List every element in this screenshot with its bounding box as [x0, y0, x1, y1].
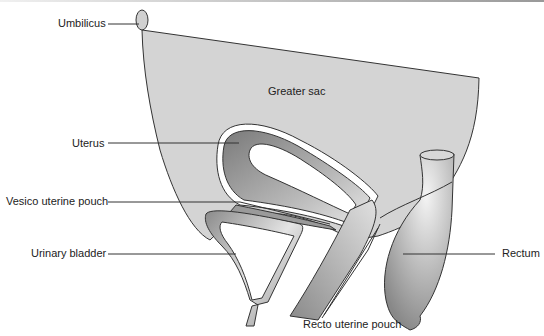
label-uterus: Uterus	[72, 137, 104, 150]
pelvis-diagram	[0, 0, 544, 336]
label-rectum: Rectum	[502, 247, 540, 260]
label-greater-sac: Greater sac	[268, 85, 325, 98]
umbilicus-shape	[136, 10, 148, 30]
label-recto-uterine-pouch: Recto uterine pouch	[303, 318, 401, 331]
rectum-opening	[420, 150, 454, 160]
label-vesico-uterine-pouch: Vesico uterine pouch	[6, 195, 108, 208]
label-umbilicus: Umbilicus	[58, 17, 106, 30]
label-urinary-bladder: Urinary bladder	[31, 247, 106, 260]
